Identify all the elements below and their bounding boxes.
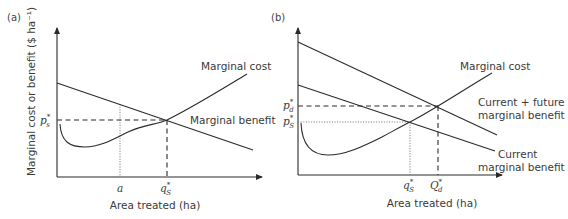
marginal-cost-curve — [60, 74, 247, 147]
marginal-benefit-label: Marginal benefit — [190, 114, 276, 126]
x-axis-label: Area treated (ha) — [110, 199, 200, 211]
y-axis-label: Marginal cost or benefit ($ ha⁻¹) — [25, 7, 37, 176]
pd-tick-label: p*d — [283, 98, 294, 114]
current-mb-label-line2: marginal benefit — [478, 161, 565, 173]
panel-b: (b) Marginal cost Current + future margi… — [271, 12, 565, 209]
current-future-label-line1: Current + future — [478, 96, 565, 108]
a-tick-label: a — [117, 182, 123, 194]
ps-tick-label: p*s — [40, 113, 51, 129]
qs-tick-label: q*S — [403, 178, 414, 194]
current-marginal-benefit-line — [298, 85, 495, 151]
x-axis-label: Area treated (ha) — [387, 197, 477, 209]
marginal-cost-label: Marginal cost — [201, 60, 271, 72]
panel-a-label: (a) — [7, 12, 21, 23]
panel-a: (a) Marginal cost or benefit ($ ha⁻¹) Ma… — [7, 7, 276, 211]
ps-tick-label: p*S — [283, 114, 294, 130]
panel-b-label: (b) — [271, 12, 285, 23]
current-mb-label-line1: Current — [498, 148, 537, 160]
marginal-cost-label: Marginal cost — [460, 60, 530, 72]
Qd-tick-label: Q*d — [430, 178, 443, 194]
qs-tick-label: q*S — [160, 181, 171, 197]
marginal-cost-curve — [301, 73, 492, 155]
figure: (a) Marginal cost or benefit ($ ha⁻¹) Ma… — [0, 0, 568, 219]
current-future-label-line2: marginal benefit — [478, 109, 565, 121]
